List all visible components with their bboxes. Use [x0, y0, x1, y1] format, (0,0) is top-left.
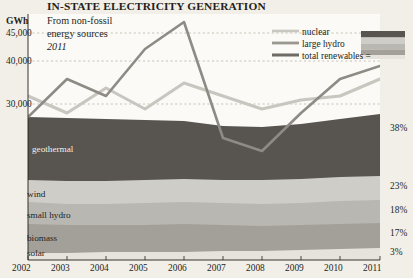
- area-label-biomass: biomass: [27, 233, 57, 243]
- x-axis-tick-2007: 2007: [207, 263, 226, 273]
- right-label-biomass-share: 17%: [390, 228, 407, 238]
- area-label-solar: solar: [27, 248, 45, 258]
- x-axis-tick-2009: 2009: [285, 263, 304, 273]
- x-axis-tick-2011: 2011: [363, 263, 381, 273]
- x-axis-tick-2008: 2008: [246, 263, 265, 273]
- legend-label-total-renewables: total renewables =: [302, 51, 371, 61]
- chart-subtitle-line1: From non-fossil: [47, 16, 112, 26]
- legend-label-nuclear: nuclear: [302, 27, 330, 37]
- stacked-area-series: [28, 114, 380, 260]
- y-axis-tick-30000: 30,000: [6, 100, 32, 109]
- chart-title: IN-STATE ELECTRICITY GENERATION: [47, 1, 266, 12]
- y-axis-unit-label: GWh: [6, 16, 28, 26]
- y-axis-tick-45000: 45,000: [6, 29, 32, 38]
- right-label-wind-share: 23%: [390, 181, 407, 191]
- x-axis-tick-2006: 2006: [168, 263, 187, 273]
- area-label-wind: wind: [27, 189, 45, 199]
- area-label-geothermal: geothermal: [32, 144, 73, 154]
- right-label-small-hydro-share: 18%: [390, 205, 407, 215]
- chart-subtitle-year: 2011: [47, 42, 67, 52]
- x-axis-tick-2003: 2003: [51, 263, 70, 273]
- x-axis-tick-2002: 2002: [12, 263, 31, 273]
- x-axis-tick-2005: 2005: [129, 263, 148, 273]
- right-label-geothermal-share: 38%: [390, 123, 407, 133]
- right-label-solar-share: 3%: [390, 247, 403, 257]
- legend-label-large-hydro: large hydro: [302, 39, 345, 49]
- x-axis-tick-2004: 2004: [90, 263, 109, 273]
- chart-figure: IN-STATE ELECTRICITY GENERATION From non…: [0, 0, 413, 278]
- area-label-small-hydro: small hydro: [27, 210, 71, 220]
- y-axis-tick-40000: 40,000: [6, 57, 32, 66]
- chart-subtitle-line2: energy sources: [47, 29, 108, 39]
- x-axis-tick-2010: 2010: [324, 263, 343, 273]
